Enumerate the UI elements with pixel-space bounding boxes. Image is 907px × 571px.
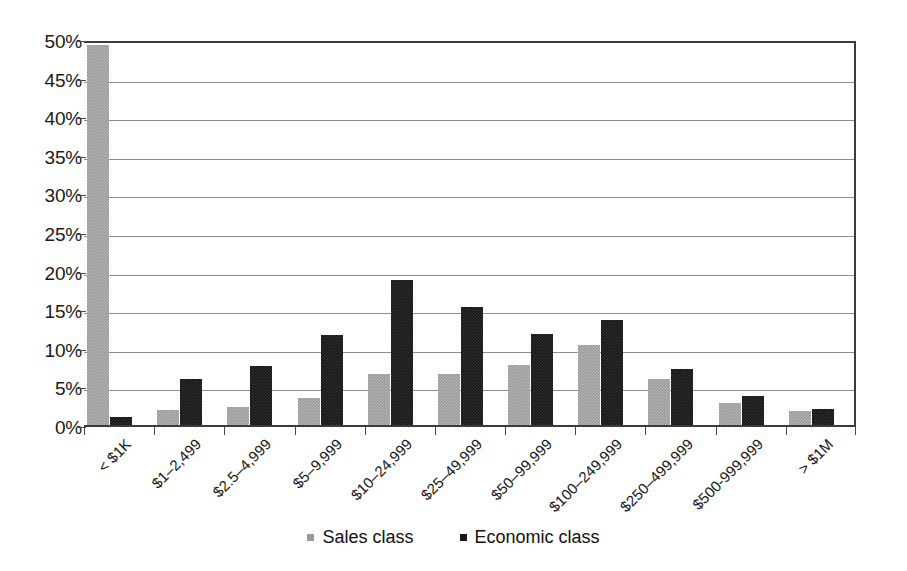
bar-group	[295, 43, 365, 425]
y-tick-label: 20%	[45, 263, 82, 282]
x-tick-mark	[365, 427, 366, 435]
y-tick-mark	[78, 118, 86, 119]
bar-group	[435, 43, 505, 425]
x-tick-label-text: $25–49,999	[418, 436, 485, 503]
legend-entry[interactable]: Economic class	[460, 528, 600, 546]
y-tick-label: 30%	[45, 186, 82, 205]
bar	[180, 379, 202, 425]
x-tick-mark	[645, 427, 646, 435]
x-tick-mark	[84, 427, 85, 435]
y-tick-mark	[78, 311, 86, 312]
x-tick-label-text: $250–499,999	[617, 436, 696, 515]
bar-group	[365, 43, 435, 425]
x-tick-label-text: $10–24,999	[348, 436, 415, 503]
legend-label: Sales class	[322, 528, 413, 546]
bar	[812, 409, 834, 425]
x-tick-mark	[295, 427, 296, 435]
bar-chart-figure: 0%5%10%15%20%25%30%35%40%45%50% < $1K$1–…	[0, 0, 907, 571]
y-tick-mark	[78, 273, 86, 274]
x-tick-mark	[786, 427, 787, 435]
y-tick-mark	[78, 388, 86, 389]
y-tick-label: 25%	[45, 225, 82, 244]
bar	[321, 335, 343, 425]
bar-group	[575, 43, 645, 425]
x-tick-label-text: $50–99,999	[488, 436, 555, 503]
y-tick-mark	[78, 195, 86, 196]
legend-label: Economic class	[475, 528, 600, 546]
bar	[87, 45, 109, 425]
x-tick-label-text: $1–2,499	[149, 436, 205, 492]
y-tick-mark	[78, 350, 86, 351]
y-tick-label: 40%	[45, 109, 82, 128]
plot-area	[84, 41, 856, 427]
legend-swatch-icon	[307, 534, 314, 541]
x-tick-label-text: < $1K	[95, 436, 134, 475]
x-tick-label-text: $2.5–4,999	[210, 436, 274, 500]
y-tick-mark	[78, 80, 86, 81]
bar	[531, 334, 553, 425]
y-tick-mark	[78, 41, 86, 42]
x-axis: < $1K$1–2,499$2.5–4,999$5–9,999$10–24,99…	[84, 436, 874, 531]
bar-group	[84, 43, 154, 425]
x-tick-mark	[154, 427, 155, 435]
y-tick-label: 15%	[45, 302, 82, 321]
bar	[391, 280, 413, 425]
x-tick-mark	[505, 427, 506, 435]
y-tick-mark	[78, 157, 86, 158]
y-tick-label: 50%	[45, 32, 82, 51]
bar-group	[786, 43, 856, 425]
y-axis: 0%5%10%15%20%25%30%35%40%45%50%	[30, 30, 82, 438]
bars-layer	[84, 43, 854, 425]
x-tick-mark	[435, 427, 436, 435]
x-tick-mark	[716, 427, 717, 435]
legend-swatch-icon	[460, 534, 467, 541]
x-tick-label-text: > $1M	[795, 436, 836, 477]
y-tick-label: 35%	[45, 147, 82, 166]
y-tick-label: 10%	[45, 340, 82, 359]
bar-group	[505, 43, 575, 425]
y-tick-label: 45%	[45, 70, 82, 89]
y-tick-mark	[78, 234, 86, 235]
y-tick-mark	[78, 427, 86, 428]
bar	[601, 320, 623, 425]
bar	[461, 307, 483, 425]
bar	[742, 396, 764, 425]
x-tick-mark	[575, 427, 576, 435]
bar-group	[224, 43, 294, 425]
x-tick-label-text: $100–249,999	[547, 436, 626, 515]
bar	[110, 417, 132, 425]
x-tick-label-text: $5–9,999	[289, 436, 345, 492]
bar-group	[716, 43, 786, 425]
x-tick-mark	[224, 427, 225, 435]
x-tick-label-text: $500-999,999	[689, 436, 766, 513]
bar-group	[154, 43, 224, 425]
bar	[250, 366, 272, 425]
legend-entry[interactable]: Sales class	[307, 528, 413, 546]
chart-legend: Sales classEconomic class	[0, 528, 907, 546]
